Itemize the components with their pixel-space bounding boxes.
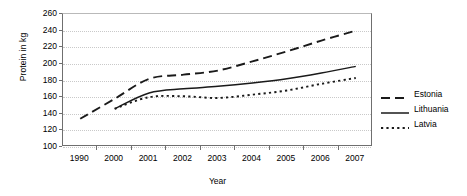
- x-axis-tick-mark: [269, 146, 270, 150]
- legend: EstoniaLithuaniaLatvia: [381, 86, 467, 131]
- legend-label: Lithuania: [414, 104, 449, 114]
- y-axis-title: Protein in kg: [18, 12, 28, 102]
- x-axis-tick-mark: [96, 146, 97, 150]
- legend-label: Estonia: [414, 89, 442, 99]
- legend-item-estonia[interactable]: Estonia: [381, 86, 467, 101]
- plot-area: [62, 13, 372, 146]
- series-line-lithuania: [115, 66, 356, 108]
- y-axis-tick-label: 140: [31, 109, 57, 118]
- y-axis-tick-label: 200: [31, 59, 57, 68]
- x-axis-tick-mark: [234, 146, 235, 150]
- y-axis-tick-mark: [59, 46, 62, 47]
- y-axis-tick-mark: [59, 96, 62, 97]
- y-axis-tick-label: 120: [31, 125, 57, 134]
- series-line-latvia: [115, 78, 356, 109]
- x-axis-title: Year: [62, 176, 373, 186]
- x-axis-tick-mark: [131, 146, 132, 150]
- y-axis-tick-label: 180: [31, 76, 57, 85]
- line-chart: Protein in kg 10012014016018020022024026…: [0, 0, 467, 196]
- x-axis-tick-mark: [165, 146, 166, 150]
- y-axis-tick-mark: [59, 13, 62, 14]
- y-axis-tick-label: 160: [31, 92, 57, 101]
- y-axis-tick-label: 220: [31, 42, 57, 51]
- y-axis-tick-mark: [59, 129, 62, 130]
- y-axis-tick-label: 260: [31, 9, 57, 18]
- y-axis-tick-mark: [59, 113, 62, 114]
- legend-swatch-icon: [381, 119, 409, 129]
- legend-swatch-icon: [381, 89, 409, 99]
- gridline: [63, 147, 371, 148]
- y-axis-tick-mark: [59, 80, 62, 81]
- legend-item-lithuania[interactable]: Lithuania: [381, 101, 467, 116]
- legend-label: Latvia: [414, 119, 437, 129]
- series-lines: [63, 14, 373, 147]
- x-axis-tick-mark: [338, 146, 339, 150]
- x-axis-tick-mark: [200, 146, 201, 150]
- y-axis-tick-mark: [59, 63, 62, 64]
- x-axis-tick-label: 2007: [335, 153, 375, 163]
- y-axis-tick-label: 240: [31, 26, 57, 35]
- legend-swatch-icon: [381, 104, 409, 114]
- legend-item-latvia[interactable]: Latvia: [381, 116, 467, 131]
- y-axis-tick-mark: [59, 30, 62, 31]
- x-axis-tick-mark: [303, 146, 304, 150]
- y-axis-tick-mark: [59, 146, 62, 147]
- y-axis-tick-label: 100: [31, 142, 57, 151]
